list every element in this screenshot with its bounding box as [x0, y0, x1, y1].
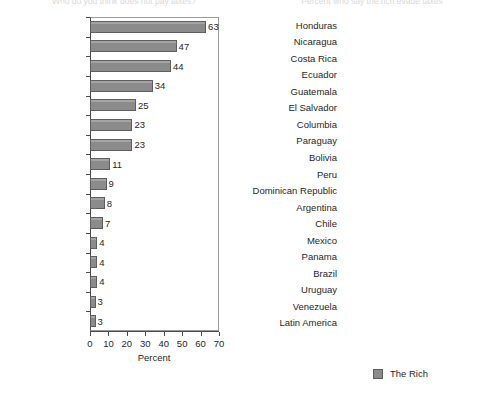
bar [90, 256, 97, 268]
bar-value-label: 44 [173, 61, 184, 72]
bar [90, 237, 97, 249]
bar [90, 99, 136, 111]
y-axis-tick [86, 76, 90, 77]
y-axis-tick [86, 253, 90, 254]
bar-value-label: 4 [99, 237, 104, 248]
category-label: Bolivia [237, 152, 337, 163]
y-axis-tick [86, 233, 90, 234]
category-label: Dominican Republic [237, 185, 337, 196]
category-label: Uruguay [237, 284, 337, 295]
y-axis-tick [86, 96, 90, 97]
x-axis-tick [108, 332, 109, 336]
bar [90, 119, 132, 131]
x-axis-tick-label: 10 [103, 338, 114, 349]
chart-panel-left: Rich63Politicians47Millionaires44Public … [0, 0, 248, 397]
bar-value-label: 25 [138, 100, 149, 111]
category-label: Panama [237, 251, 337, 262]
bar [90, 315, 96, 327]
category-label: Brazil [237, 268, 337, 279]
category-label: Ecuador [237, 69, 337, 80]
y-axis-tick [86, 17, 90, 18]
category-label: Nicaragua [237, 36, 337, 47]
bar-value-label: 11 [112, 159, 122, 170]
bar-value-label: 9 [109, 178, 114, 189]
bar-value-label: 63 [208, 21, 219, 32]
bar-value-label: 3 [98, 316, 103, 327]
y-axis-tick [86, 194, 90, 195]
x-axis-tick-label: 70 [214, 338, 225, 349]
x-axis-title-left: Percent [138, 352, 171, 363]
category-label: Honduras [237, 20, 337, 31]
y-axis-tick [86, 56, 90, 57]
bar-value-label: 4 [99, 257, 104, 268]
bar-value-label: 3 [98, 296, 103, 307]
category-label: Peru [237, 169, 337, 180]
category-label: Guatemala [237, 86, 337, 97]
bar [90, 197, 105, 209]
x-axis-tick [201, 332, 202, 336]
legend-swatch-the-rich [373, 369, 383, 379]
category-label: Latin America [237, 317, 337, 328]
bar [90, 158, 110, 170]
legend: The Rich [373, 368, 428, 379]
x-axis-tick [127, 332, 128, 336]
y-axis-tick [86, 311, 90, 312]
bar [90, 60, 171, 72]
y-axis-tick [86, 174, 90, 175]
bar-value-label: 23 [134, 139, 145, 150]
category-label: Argentina [237, 202, 337, 213]
y-axis-tick [86, 37, 90, 38]
x-axis-tick-label: 20 [122, 338, 133, 349]
bar [90, 21, 206, 33]
x-axis-tick-label: 30 [140, 338, 151, 349]
category-label: Venezuela [237, 301, 337, 312]
y-axis-tick [86, 135, 90, 136]
category-label: Mexico [237, 235, 337, 246]
bar-value-label: 4 [99, 276, 104, 287]
bar [90, 80, 153, 92]
x-axis-tick-label: 60 [195, 338, 206, 349]
x-axis-tick-label: 50 [177, 338, 188, 349]
x-axis-tick [164, 332, 165, 336]
category-label: El Salvador [237, 102, 337, 113]
bar [90, 40, 177, 52]
x-axis-tick [145, 332, 146, 336]
bar [90, 217, 103, 229]
bar [90, 296, 96, 308]
bar [90, 178, 107, 190]
bar-value-label: 47 [179, 41, 190, 52]
bar [90, 276, 97, 288]
x-axis-tick-label: 40 [158, 338, 169, 349]
y-axis-tick [86, 115, 90, 116]
y-axis-tick [86, 213, 90, 214]
y-axis-tick [86, 272, 90, 273]
x-axis-tick [182, 332, 183, 336]
y-axis-tick [86, 292, 90, 293]
category-label: Costa Rica [237, 53, 337, 64]
x-axis-tick-label: 0 [87, 338, 92, 349]
bar-value-label: 7 [105, 218, 110, 229]
x-axis-tick [90, 332, 91, 336]
bar-value-label: 8 [107, 198, 112, 209]
x-axis-tick [219, 332, 220, 336]
category-label: Paraguay [237, 135, 337, 146]
bar [90, 139, 132, 151]
category-label: Chile [237, 218, 337, 229]
bar-value-label: 23 [134, 119, 145, 130]
chart-panel-right: Honduras76Nicaragua73Costa Rica72Ecuador… [248, 0, 496, 397]
bar-value-label: 34 [155, 80, 166, 91]
y-axis-tick [86, 154, 90, 155]
category-label: Columbia [237, 119, 337, 130]
legend-label-the-rich: The Rich [390, 368, 428, 379]
